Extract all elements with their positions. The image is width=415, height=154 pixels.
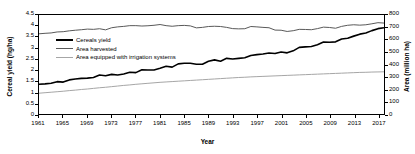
chart-legend: Cereals yieldArea harvestedArea equipped…: [56, 36, 176, 62]
x-axis-tick-mark: [282, 115, 283, 118]
x-axis-tick-mark: [330, 115, 331, 118]
x-axis-tick-mark: [184, 115, 185, 118]
series-lines: [39, 15, 384, 114]
plot-area: [38, 14, 385, 115]
y-axis-left-tick-label: 4: [12, 21, 34, 27]
x-axis-tick-mark: [306, 115, 307, 118]
x-axis-tick-mark: [160, 115, 161, 118]
x-axis-tick-mark: [355, 115, 356, 118]
y-axis-right-tick-mark: [385, 52, 388, 53]
y-axis-right-tick-mark: [385, 14, 388, 15]
legend-label: Area harvested: [76, 45, 117, 54]
x-axis-tick-mark: [233, 115, 234, 118]
chart-container: Cereal yield (hg/ha) Area (million ha) Y…: [0, 0, 415, 154]
y-axis-right-tick-label: 0: [389, 111, 413, 117]
y-axis-left-tick-label: 1: [12, 89, 34, 95]
y-axis-right-tick-label: 500: [389, 48, 413, 54]
y-axis-right-tick-mark: [385, 115, 388, 116]
y-axis-right-tick-mark: [385, 27, 388, 28]
y-axis-right-tick-mark: [385, 90, 388, 91]
x-axis-tick-label: 2017: [364, 120, 394, 126]
x-axis-tick-mark: [87, 115, 88, 118]
y-axis-right-tick-mark: [385, 77, 388, 78]
y-axis-right-tick-label: 100: [389, 98, 413, 104]
x-axis-tick-mark: [379, 115, 380, 118]
series-line: [39, 23, 384, 34]
legend-label: Area equipped with irrigation systems: [76, 53, 176, 62]
y-axis-right-tick-label: 400: [389, 61, 413, 67]
legend-swatch: [56, 48, 73, 49]
y-axis-right-tick-label: 200: [389, 86, 413, 92]
y-axis-left-tick-label: 2: [12, 66, 34, 72]
y-axis-right-tick-mark: [385, 39, 388, 40]
legend-item: Area equipped with irrigation systems: [56, 53, 176, 62]
legend-item: Area harvested: [56, 45, 176, 54]
legend-swatch: [56, 39, 73, 41]
y-axis-left-tick-label: 3: [12, 44, 34, 50]
y-axis-right-tick-mark: [385, 65, 388, 66]
legend-label: Cereals yield: [76, 36, 111, 45]
y-axis-left-tick-label: 3.5: [12, 32, 34, 38]
x-axis-tick-mark: [208, 115, 209, 118]
y-axis-right-tick-label: 700: [389, 23, 413, 29]
y-axis-right-tick-label: 800: [389, 10, 413, 16]
y-axis-left-tick-label: 4.5: [12, 10, 34, 16]
y-axis-right-tick-mark: [385, 102, 388, 103]
y-axis-left-tick-label: 0.5: [12, 100, 34, 106]
legend-swatch: [56, 57, 73, 58]
series-line: [39, 72, 384, 93]
y-axis-left-tick-label: 1.5: [12, 77, 34, 83]
legend-item: Cereals yield: [56, 36, 176, 45]
x-axis-tick-mark: [62, 115, 63, 118]
x-axis-tick-mark: [257, 115, 258, 118]
x-axis-tick-mark: [111, 115, 112, 118]
y-axis-left-tick-label: 2.5: [12, 55, 34, 61]
x-axis-title: Year: [0, 138, 415, 145]
y-axis-right-tick-label: 600: [389, 35, 413, 41]
y-axis-left-tick-label: 0: [12, 111, 34, 117]
x-axis-tick-mark: [135, 115, 136, 118]
y-axis-right-tick-label: 300: [389, 73, 413, 79]
x-axis-tick-mark: [38, 115, 39, 118]
